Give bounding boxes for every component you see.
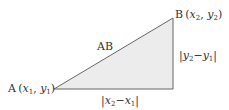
horizontal-leg-label: |x2−x1| (101, 95, 139, 107)
hypotenuse-label: AB (97, 41, 113, 53)
point-a-label: A (x1, y1) (8, 83, 55, 95)
point-b-label: B (x2, y2) (175, 9, 222, 21)
vertical-leg-label: |y2−y1| (179, 50, 217, 62)
